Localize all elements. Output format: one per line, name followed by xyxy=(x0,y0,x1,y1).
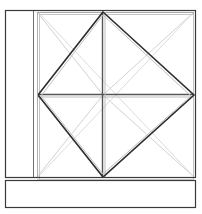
cad-drawing-canvas xyxy=(0,0,202,214)
window-elevation-drawing xyxy=(0,0,202,214)
